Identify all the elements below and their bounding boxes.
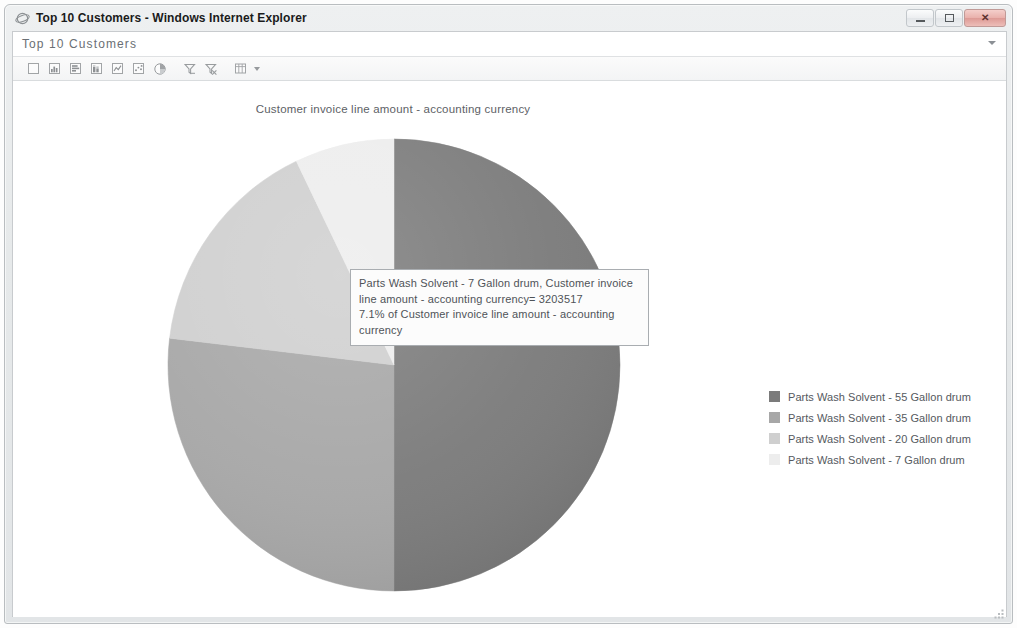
- bar-chart-icon[interactable]: [66, 60, 85, 77]
- legend-swatch: [769, 454, 780, 465]
- title-bar[interactable]: Top 10 Customers - Windows Internet Expl…: [5, 5, 1012, 31]
- chevron-down-icon[interactable]: [988, 41, 996, 45]
- column-chart-icon[interactable]: [45, 60, 64, 77]
- legend-item[interactable]: Parts Wash Solvent - 7 Gallon drum: [769, 449, 999, 470]
- legend-item-label: Parts Wash Solvent - 20 Gallon drum: [788, 433, 971, 445]
- window-title: Top 10 Customers - Windows Internet Expl…: [36, 11, 307, 25]
- screenshot-root: Top 10 Customers - Windows Internet Expl…: [0, 0, 1017, 628]
- close-button[interactable]: ✕: [964, 9, 1006, 27]
- maximize-button[interactable]: [935, 9, 963, 27]
- page-title: Top 10 Customers: [13, 37, 137, 51]
- tooltip-line-3: 7.1% of Customer invoice line amount - a…: [359, 307, 641, 323]
- chart-tooltip: Parts Wash Solvent - 7 Gallon drum, Cust…: [350, 269, 649, 346]
- report-toolbar: [13, 57, 1006, 81]
- window-controls: ✕: [906, 9, 1006, 27]
- scatter-chart-icon[interactable]: [129, 60, 148, 77]
- chart-title: Customer invoice line amount - accountin…: [13, 103, 773, 115]
- chart-legend: Parts Wash Solvent - 55 Gallon drumParts…: [769, 386, 999, 470]
- minimize-button[interactable]: [906, 9, 934, 27]
- legend-swatch: [769, 412, 780, 423]
- tooltip-line-4: currency: [359, 323, 641, 339]
- table-view-icon[interactable]: [231, 60, 250, 77]
- legend-item[interactable]: Parts Wash Solvent - 20 Gallon drum: [769, 428, 999, 449]
- clear-filter-icon[interactable]: [201, 60, 220, 77]
- tooltip-line-2: line amount - accounting currency= 32035…: [359, 292, 641, 308]
- legend-item-label: Parts Wash Solvent - 7 Gallon drum: [788, 454, 965, 466]
- pie-chart-icon[interactable]: [150, 60, 169, 77]
- pie-chart-svg[interactable]: [166, 137, 622, 593]
- pie-sheen: [168, 139, 620, 591]
- close-icon: ✕: [981, 13, 989, 23]
- browser-window: Top 10 Customers - Windows Internet Expl…: [4, 4, 1013, 624]
- chart-canvas: Customer invoice line amount - accountin…: [13, 81, 1006, 617]
- legend-item-label: Parts Wash Solvent - 35 Gallon drum: [788, 412, 971, 424]
- report-header: Top 10 Customers: [13, 32, 1006, 57]
- legend-swatch: [769, 433, 780, 444]
- legend-swatch: [769, 391, 780, 402]
- legend-item[interactable]: Parts Wash Solvent - 55 Gallon drum: [769, 386, 999, 407]
- page-client-area: Top 10 Customers: [12, 31, 1007, 617]
- legend-item-label: Parts Wash Solvent - 55 Gallon drum: [788, 391, 971, 403]
- tooltip-line-1: Parts Wash Solvent - 7 Gallon drum, Cust…: [359, 276, 641, 292]
- chevron-down-icon[interactable]: [254, 67, 260, 71]
- filter-icon[interactable]: [180, 60, 199, 77]
- stacked-chart-icon[interactable]: [87, 60, 106, 77]
- resize-grip[interactable]: [993, 606, 1005, 618]
- line-chart-icon[interactable]: [108, 60, 127, 77]
- minimize-icon: [916, 20, 925, 22]
- status-bar: [12, 605, 1007, 619]
- internet-explorer-icon: [15, 11, 30, 26]
- legend-item[interactable]: Parts Wash Solvent - 35 Gallon drum: [769, 407, 999, 428]
- pie-chart[interactable]: [166, 137, 622, 593]
- blank-report-icon[interactable]: [24, 60, 43, 77]
- maximize-icon: [945, 14, 954, 22]
